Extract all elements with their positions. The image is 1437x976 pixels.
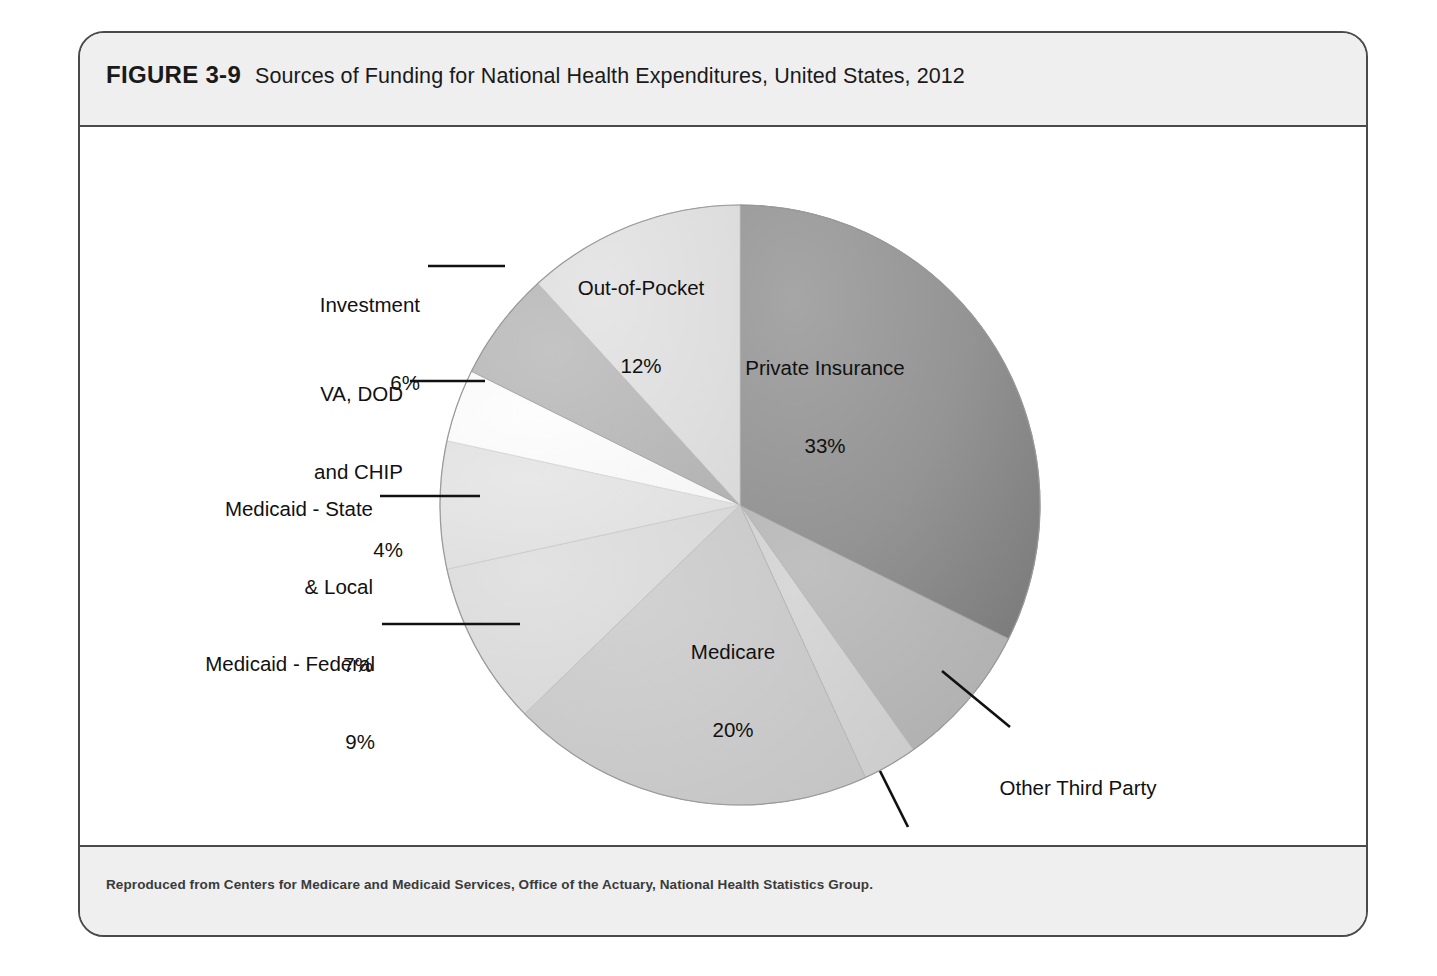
pie-label-investment-name: Investment (265, 292, 420, 318)
figure-source-band: Reproduced from Centers for Medicare and… (80, 845, 1366, 935)
pie-label-private-insurance-value: 33% (700, 433, 950, 459)
pie-label-medicare-name: Medicare (628, 639, 838, 665)
figure-frame: FIGURE 3-9 Sources of Funding for Nation… (78, 31, 1368, 937)
pie-label-out-of-pocket-name: Out-of-Pocket (541, 275, 741, 301)
pie-label-medicaid-state-name-1: Medicaid - State (163, 496, 373, 522)
pie-label-medicaid-federal-name: Medicaid - Federal (165, 651, 375, 677)
source-note: Reproduced from Centers for Medicare and… (106, 877, 873, 892)
pie-label-private-insurance: Private Insurance 33% (700, 303, 950, 511)
pie-label-medicare-value: 20% (628, 717, 838, 743)
page-title: FIGURE 3-9 Sources of Funding for Nation… (106, 61, 965, 89)
pie-label-government-public-health-name-2: Health Activities (790, 935, 1046, 937)
figure-number: FIGURE 3-9 (106, 61, 255, 88)
figure-title-band: FIGURE 3-9 Sources of Funding for Nation… (80, 33, 1366, 127)
pie-label-medicare: Medicare 20% (628, 587, 838, 795)
pie-label-va-dod-chip-name-1: VA, DOD (235, 381, 403, 407)
pie-label-medicaid-state-name-2: & Local (163, 574, 373, 600)
figure-page: FIGURE 3-9 Sources of Funding for Nation… (0, 0, 1437, 976)
pie-label-medicaid-federal-value: 9% (165, 729, 375, 755)
figure-title-text: Sources of Funding for National Health E… (255, 64, 965, 88)
pie-label-other-third-party-name-1: Other Third Party (950, 775, 1206, 801)
pie-label-medicaid-federal: Medicaid - Federal 9% (165, 599, 375, 807)
pie-label-private-insurance-name: Private Insurance (700, 355, 950, 381)
chart-plot-area: Out-of-Pocket 12% Investment 6% VA, DOD … (80, 127, 1366, 843)
